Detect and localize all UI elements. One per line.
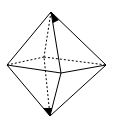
edge-back-right <box>44 57 106 65</box>
edge-bottom-front <box>50 73 61 116</box>
octahedron-diagram <box>0 0 119 121</box>
edge-bottom-back <box>44 57 50 116</box>
edge-top-right <box>51 12 106 65</box>
edge-left-front <box>7 65 61 73</box>
